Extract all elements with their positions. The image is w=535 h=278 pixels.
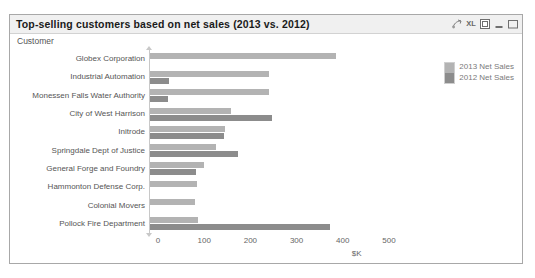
bar-2013[interactable] xyxy=(150,144,216,150)
x-tick-label: 500 xyxy=(382,236,395,245)
bar-2013[interactable] xyxy=(150,71,269,77)
x-tick-label: 200 xyxy=(244,236,257,245)
bar-2013[interactable] xyxy=(150,199,195,205)
bar-2012[interactable] xyxy=(150,133,224,139)
export-arrow-icon[interactable] xyxy=(452,17,463,30)
x-tick-label: 0 xyxy=(156,236,160,245)
category-label[interactable]: Colonial Movers xyxy=(88,201,145,210)
category-label[interactable]: Springdale Dept of Justice xyxy=(52,146,145,155)
fullscreen-icon[interactable] xyxy=(479,17,490,30)
x-axis-title: $K xyxy=(352,249,362,258)
x-tick-label: 300 xyxy=(290,236,303,245)
bar-2012[interactable] xyxy=(150,115,272,121)
widget-titlebar: Top-selling customers based on net sales… xyxy=(10,15,522,34)
category-label[interactable]: Initrode xyxy=(118,127,145,136)
maximize-icon[interactable] xyxy=(507,17,518,30)
x-tick-label: 400 xyxy=(336,236,349,245)
category-label[interactable]: Globex Corporation xyxy=(76,54,145,63)
bar-2012[interactable] xyxy=(150,96,168,102)
titlebar-icon-group: XL xyxy=(452,17,518,30)
category-label[interactable]: Monessen Falls Water Authority xyxy=(32,91,145,100)
bar-series-container xyxy=(150,50,522,233)
bar-2013[interactable] xyxy=(150,181,197,187)
bar-2012[interactable] xyxy=(150,169,196,175)
chart-body: Customer 2013 Net Sales 2012 Net Sales G… xyxy=(10,34,522,263)
minimize-icon[interactable] xyxy=(493,17,504,30)
dimension-label: Customer xyxy=(17,36,54,46)
category-label[interactable]: City of West Harrison xyxy=(70,109,145,118)
value-axis-ticks: 0100200300400500$K xyxy=(150,236,522,266)
bar-2013[interactable] xyxy=(150,89,269,95)
category-label[interactable]: Pollock Fire Department xyxy=(59,219,145,228)
bar-2013[interactable] xyxy=(150,126,225,132)
bar-2012[interactable] xyxy=(150,224,330,230)
category-label[interactable]: Hammonton Defense Corp. xyxy=(48,182,145,191)
chart-widget: Top-selling customers based on net sales… xyxy=(9,14,523,264)
bar-2012[interactable] xyxy=(150,151,238,157)
bar-2013[interactable] xyxy=(150,217,198,223)
excel-xl-icon[interactable]: XL xyxy=(466,17,476,30)
category-label[interactable]: General Forge and Foundry xyxy=(46,164,145,173)
plot-area: Globex CorporationIndustrial AutomationM… xyxy=(10,50,522,263)
bar-2013[interactable] xyxy=(150,108,231,114)
bar-2013[interactable] xyxy=(150,53,336,59)
bar-2012[interactable] xyxy=(150,78,169,84)
x-tick-label: 100 xyxy=(198,236,211,245)
page-title: Top-selling customers based on net sales… xyxy=(10,18,310,30)
bar-2013[interactable] xyxy=(150,162,204,168)
category-label[interactable]: Industrial Automation xyxy=(70,72,145,81)
